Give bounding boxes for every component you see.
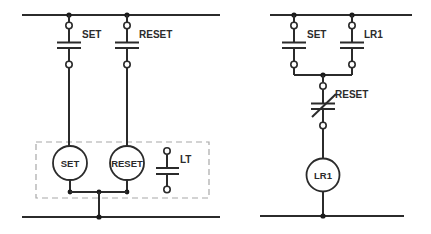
coil-label-set: SET: [61, 158, 80, 169]
terminal: [164, 148, 170, 154]
right-set-contact: SET: [282, 12, 326, 75]
junction-dot: [320, 213, 325, 218]
terminal: [124, 22, 130, 28]
contact-label-lt: LT: [180, 154, 191, 165]
terminal: [124, 61, 130, 67]
left-circuit: SET SET RESET RESET: [22, 12, 220, 219]
terminal: [349, 61, 355, 67]
contact-label-set-right: SET: [307, 29, 326, 40]
terminal: [66, 22, 72, 28]
terminal: [164, 186, 170, 192]
terminal: [66, 61, 72, 67]
right-reset-nc-contact: RESET: [311, 83, 368, 159]
junction-dot: [96, 214, 101, 219]
coil-label-lr1: LR1: [314, 170, 333, 181]
lt-contact: LT: [156, 148, 191, 193]
contact-label-set: SET: [82, 29, 101, 40]
set-branch: SET SET: [53, 12, 101, 194]
terminal: [349, 22, 355, 28]
contact-label-lr1: LR1: [364, 29, 383, 40]
terminal: [320, 122, 326, 128]
contact-label-reset-nc: RESET: [335, 89, 368, 100]
terminal: [320, 83, 326, 89]
contact-label-reset: RESET: [139, 29, 172, 40]
ladder-diagram: SET SET RESET RESET: [0, 0, 431, 234]
right-lr1-contact: LR1: [340, 12, 383, 75]
terminal: [291, 61, 297, 67]
terminal: [291, 22, 297, 28]
right-circuit: SET LR1 RESET: [260, 12, 412, 218]
coil-label-reset: RESET: [111, 158, 143, 169]
